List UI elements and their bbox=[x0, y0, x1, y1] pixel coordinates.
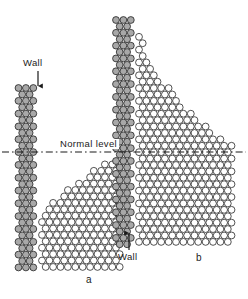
panel-caption-b: b bbox=[196, 253, 202, 263]
wall-label-a: Wall bbox=[23, 58, 43, 68]
panel-b-liquid-molecules bbox=[136, 33, 235, 245]
panel-a-wall-molecules bbox=[15, 85, 37, 271]
panel-a-liquid-molecules bbox=[39, 161, 124, 270]
normal-level-label: Normal level bbox=[58, 139, 119, 149]
panel-b-wall-molecules bbox=[113, 17, 135, 248]
wall-label-b: Wall bbox=[118, 252, 138, 262]
panel-caption-a: a bbox=[86, 275, 92, 285]
capillarity-figure: Wall Normal level Wall a b bbox=[0, 0, 248, 299]
